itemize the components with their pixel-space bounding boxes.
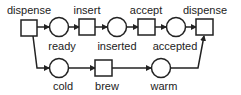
label-inserted: inserted bbox=[97, 40, 136, 52]
transition-brew bbox=[95, 60, 112, 76]
transition-accept bbox=[138, 19, 155, 35]
label-dispense-end: dispense bbox=[183, 4, 227, 16]
petri-net-diagram: dispense insert accept dispense ready in… bbox=[0, 0, 241, 95]
place-accepted bbox=[167, 18, 186, 37]
place-cold bbox=[50, 59, 69, 78]
arc-dispense-cold bbox=[33, 36, 49, 68]
transition-dispense-end bbox=[196, 19, 213, 35]
transition-dispense-start bbox=[21, 20, 37, 36]
label-ready: ready bbox=[48, 40, 76, 52]
label-warm: warm bbox=[150, 80, 178, 92]
label-dispense-start: dispense bbox=[7, 4, 51, 16]
place-warm bbox=[152, 59, 171, 78]
label-brew: brew bbox=[95, 80, 119, 92]
label-accepted: accepted bbox=[153, 40, 198, 52]
place-ready bbox=[50, 18, 69, 37]
label-accept: accept bbox=[130, 4, 162, 16]
label-cold: cold bbox=[53, 80, 73, 92]
transition-insert bbox=[79, 19, 95, 35]
place-inserted bbox=[108, 18, 127, 37]
label-insert: insert bbox=[74, 4, 101, 16]
